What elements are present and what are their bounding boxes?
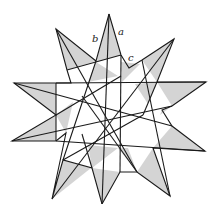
shaded-bottom-spike <box>92 168 120 204</box>
interior-line <box>12 106 172 141</box>
interior-line <box>120 55 121 172</box>
shaded-upper-right-inner <box>121 62 140 82</box>
label-c: c <box>128 52 134 63</box>
shaded-right-lower-spike <box>153 126 205 151</box>
star-dissection-diagram: b a c <box>0 0 216 204</box>
label-b: b <box>92 33 98 44</box>
shaded-right-upper-spike <box>157 82 206 106</box>
label-a: a <box>118 26 124 37</box>
